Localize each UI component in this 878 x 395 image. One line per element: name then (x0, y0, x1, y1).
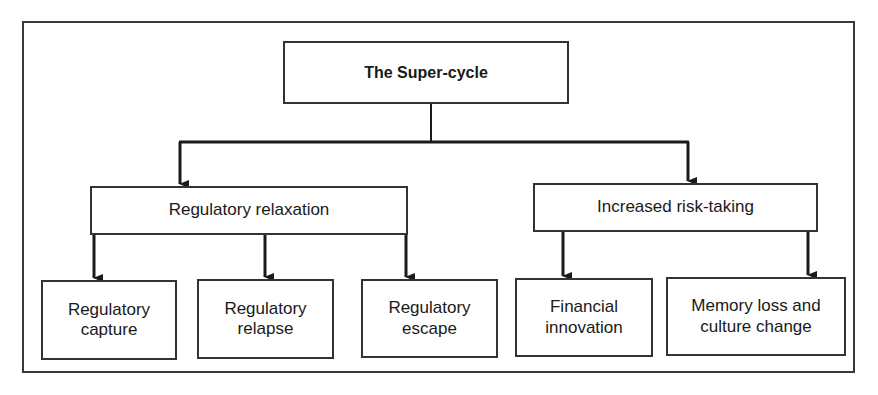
node-label-line2: capture (68, 320, 150, 340)
node-label: Increased risk-taking (597, 197, 754, 217)
node-label-line1: Regulatory (224, 299, 306, 319)
root-node-super-cycle: The Super-cycle (283, 41, 569, 104)
node-financial-innovation: Financial innovation (515, 278, 653, 357)
node-label-line2: relapse (224, 319, 306, 339)
node-regulatory-escape: Regulatory escape (361, 279, 498, 358)
node-label-line2: innovation (545, 318, 623, 338)
node-label-line2: escape (388, 319, 470, 339)
node-label-line1: Regulatory (388, 298, 470, 318)
node-regulatory-capture: Regulatory capture (41, 280, 177, 360)
root-label: The Super-cycle (364, 63, 488, 82)
node-regulatory-relaxation: Regulatory relaxation (90, 186, 408, 235)
node-label: Regulatory relaxation (169, 200, 330, 220)
node-regulatory-relapse: Regulatory relapse (197, 279, 334, 359)
node-label-line1: Memory loss and (691, 296, 820, 316)
node-label-line1: Financial (545, 297, 623, 317)
node-memory-loss-culture-change: Memory loss and culture change (666, 277, 846, 356)
node-label-line1: Regulatory (68, 300, 150, 320)
node-label-line2: culture change (691, 317, 820, 337)
node-increased-risk-taking: Increased risk-taking (533, 183, 818, 232)
